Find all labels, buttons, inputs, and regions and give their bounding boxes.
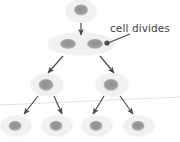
arrow-gen2-left-to-gen3-1: [24, 96, 38, 114]
arrow-gen1-to-gen2-right: [100, 56, 114, 73]
gen1-dividing-cell-membrane: [48, 33, 114, 55]
cell-divides-pointer-dot: [104, 40, 109, 45]
gen2-cell-left: [27, 71, 67, 99]
gen1-dividing-cell-nucleus-2: [87, 39, 103, 49]
gen2-cell-right-nucleus-1: [104, 79, 119, 91]
gen3-cell-1-nucleus-1: [9, 121, 22, 131]
gen3-cell-1: [0, 113, 35, 139]
gen0-cell-nucleus-1: [74, 5, 88, 16]
arrow-gen2-right-to-gen3-3: [93, 96, 104, 114]
gen1-dividing-cell-nucleus-1: [60, 39, 76, 49]
gen3-cell-3-nucleus-1: [90, 121, 103, 131]
gen3-cell-2: [38, 113, 76, 139]
cell-layer: [0, 0, 158, 139]
gen2-cell-right: [92, 71, 132, 99]
gen3-cell-2-nucleus-1: [50, 121, 63, 131]
arrow-gen1-to-gen2-left: [48, 56, 63, 73]
arrow-gen2-left-to-gen3-2: [54, 96, 62, 114]
cell-division-diagram: cell divides: [0, 0, 180, 142]
gen3-cell-4-nucleus-1: [132, 121, 145, 131]
guide-line: [0, 97, 180, 105]
gen3-cell-3: [78, 113, 116, 139]
gen2-cell-left-nucleus-1: [39, 79, 54, 91]
gen0-cell: [62, 0, 100, 25]
horizon-line: [0, 97, 180, 105]
annotation-label-cell-divides: cell divides: [110, 23, 170, 34]
gen3-cell-4: [120, 113, 158, 139]
